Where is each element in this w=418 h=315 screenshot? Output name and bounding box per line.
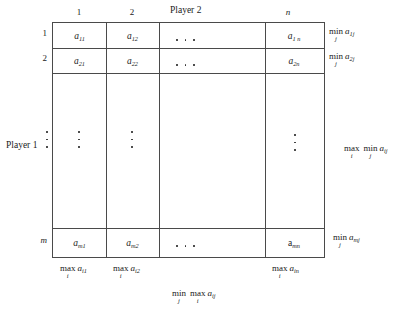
row-min-m-sub: mj (354, 236, 360, 243)
player1-title-label: Player 1 (6, 140, 37, 150)
row-min-m-arg: amj j (349, 232, 360, 248)
row-min-2-arg: a2j j (345, 51, 354, 67)
minimax-arg: aij i (208, 288, 216, 304)
col-max-1-arg: ai1 i (78, 263, 87, 279)
cell-a21: a21 (53, 56, 106, 66)
col-max-1-sub: i1 (82, 267, 87, 274)
row1-horizontal-ellipsis (176, 39, 195, 41)
row-header-m-label: m (41, 235, 48, 245)
cell-a21-base: a (74, 56, 79, 66)
row-min-m-index: j (333, 241, 347, 248)
row-header-m: m (30, 235, 47, 245)
row-header-2-label: 2 (43, 53, 48, 63)
row-min-1-sub: 1j (350, 30, 355, 37)
cell-a11-sub: 11 (79, 35, 85, 42)
cell-a2n-sub: 2n (293, 60, 299, 67)
col-max-n-index: i (272, 272, 288, 279)
column-header-n-label: n (286, 7, 291, 17)
col-max-2-arg: ai2 i (131, 263, 140, 279)
col-max-1-operator: max i (60, 263, 76, 279)
column-header-2: 2 (116, 7, 148, 17)
cell-a12-base: a (127, 31, 132, 41)
col-max-n: max i ain i (272, 263, 299, 279)
grid-hline-1 (53, 48, 324, 49)
column-header-1-label: 1 (77, 7, 82, 17)
row-header-2: 2 (30, 53, 47, 63)
col-max-2: max i ai2 i (113, 263, 140, 279)
row-min-2-index: j (329, 60, 343, 67)
row-min-m-operator: min j (333, 232, 347, 248)
minimax-label: min j max i aij i (172, 288, 216, 304)
col1-vertical-ellipsis (78, 131, 80, 148)
minimax-idx1: j (172, 297, 186, 304)
cell-am2-sub: m2 (131, 242, 139, 249)
column-header-1: 1 (63, 7, 95, 17)
minimax-idx2: i (190, 297, 206, 304)
minimax-op2-group: max i (190, 288, 206, 304)
payoff-matrix-figure: Player 2 1 2 n 1 2 m Player 1 a11 a12 a1… (0, 0, 418, 315)
maximin-op1-group: max i (344, 143, 360, 159)
cell-am1: am1 (53, 238, 106, 248)
player2-title: Player 2 (170, 5, 201, 15)
cell-a21-sub: 21 (79, 60, 85, 67)
player2-title-label: Player 2 (170, 5, 201, 15)
row-min-2-base: a (345, 51, 350, 61)
cell-a1n: a1 n (264, 31, 324, 41)
cell-a22: a22 (106, 56, 159, 66)
cell-amn-sub: mn (292, 242, 300, 249)
row-min-2-sub: 2j (350, 55, 355, 62)
col2-vertical-ellipsis (131, 131, 133, 148)
coln-vertical-ellipsis (294, 134, 296, 151)
cell-amn: amn (264, 238, 324, 248)
player1-title: Player 1 (6, 140, 37, 150)
col-max-n-arg: ain i (290, 263, 299, 279)
row2-horizontal-ellipsis (176, 64, 195, 66)
cell-am1-sub: m1 (78, 242, 86, 249)
row-min-1-operator: min j (329, 26, 343, 42)
row-header-1-label: 1 (43, 28, 48, 38)
grid-hline-2 (53, 73, 324, 74)
rowm-horizontal-ellipsis (176, 245, 195, 247)
minimax-sub: ij (212, 292, 216, 299)
maximin-op2-group: min j (364, 143, 378, 159)
minimax-op1-group: min j (172, 288, 186, 304)
player1-vertical-ellipsis (46, 131, 48, 148)
row-min-m: min j amj j (333, 232, 360, 248)
cell-a1n-sub: 1 n (292, 35, 300, 42)
cell-a22-sub: 22 (132, 60, 138, 67)
col-max-2-index: i (113, 272, 129, 279)
row-header-1: 1 (30, 28, 47, 38)
cell-a12-sub: 12 (132, 35, 138, 42)
maximin-idx2: j (364, 152, 378, 159)
maximin-idx1: i (344, 152, 360, 159)
col-max-1-index: i (60, 272, 76, 279)
row-min-2-operator: min j (329, 51, 343, 67)
row-min-1-base: a (345, 26, 350, 36)
maximin-label: max i min j aij i (344, 143, 388, 159)
cell-a11: a11 (53, 31, 106, 41)
col-max-2-sub: i2 (135, 267, 140, 274)
grid-hline-3 (53, 228, 324, 229)
col-max-1: max i ai1 i (60, 263, 87, 279)
cell-a12: a12 (106, 31, 159, 41)
row-min-1: min j a1j j (329, 26, 354, 42)
cell-a2n: a2n (264, 56, 324, 66)
cell-a22-base: a (127, 56, 132, 66)
maximin-sub: ij (384, 147, 388, 154)
col-max-n-operator: max i (272, 263, 288, 279)
grid-vline-2 (159, 23, 160, 257)
column-header-n: n (272, 7, 304, 17)
maximin-arg: aij i (380, 143, 388, 159)
col-max-2-operator: max i (113, 263, 129, 279)
cell-am2: am2 (106, 238, 159, 248)
row-min-1-index: j (329, 35, 343, 42)
column-header-2-label: 2 (130, 7, 135, 17)
row-min-1-arg: a1j j (345, 26, 354, 42)
row-min-m-base: a (349, 232, 354, 242)
row-min-2: min j a2j j (329, 51, 354, 67)
col-max-n-sub: in (294, 267, 299, 274)
